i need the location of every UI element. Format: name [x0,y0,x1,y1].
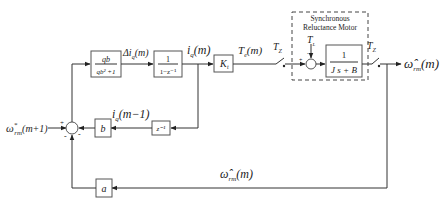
iq-prev-label: iq(m−1) [112,107,150,123]
motor-sum-sign: + [299,57,303,63]
svg-text:1: 1 [166,55,170,64]
block-diagram: ω*rm(m+1) + - - qb qb² +1 Δiq(m) 1 1−z⁻¹… [0,0,441,210]
svg-text:1−z⁻¹: 1−z⁻¹ [160,68,177,76]
motor-box-title-2: Reluctance Motor [303,23,357,32]
feedback-label: ω̂rm(m) [220,167,253,183]
sum-sign-minus-b: - [78,130,81,139]
load-sign: - [307,50,309,56]
sum-sign-plus: + [60,119,64,127]
motor-transfer-block: 1 J s + B [326,45,362,77]
svg-text:z⁻¹: z⁻¹ [156,125,166,133]
sampler-switch-1: TZ [273,41,285,67]
svg-text:ω*rm(m+1): ω*rm(m+1) [6,121,48,137]
motor-summing-junction [306,59,316,69]
output-label: ω̂rm(m) [404,56,439,73]
te-label: Te(m) [238,44,262,58]
svg-text:b: b [101,123,106,134]
delay-block: z⁻¹ [152,121,170,135]
gain-a-block: a [96,179,112,197]
torque-constant-block: K t [214,55,233,72]
a-output-line [72,135,96,188]
iq-label: iq(m) [187,43,211,59]
svg-text:1: 1 [342,50,347,60]
svg-text:a: a [102,183,107,194]
delta-iq-label: Δiq(m) [122,47,149,60]
gain-q-block: qb qb² +1 [91,51,121,77]
gain-b-block: b [95,119,111,137]
svg-text:qb: qb [102,55,110,64]
svg-text:J s + B: J s + B [331,65,357,75]
input-label: ω*rm(m+1) [6,121,48,137]
forward-path-line [72,64,90,122]
sampler-switch-2: TZ [367,40,380,67]
sum-sign-minus-a: - [64,132,67,141]
svg-text:qb² +1: qb² +1 [96,68,115,76]
motor-box-title-1: Synchronous [310,14,349,23]
summing-junction [66,122,78,134]
integrator-block: 1 1−z⁻¹ [154,51,182,77]
svg-text:TZ: TZ [273,41,283,54]
